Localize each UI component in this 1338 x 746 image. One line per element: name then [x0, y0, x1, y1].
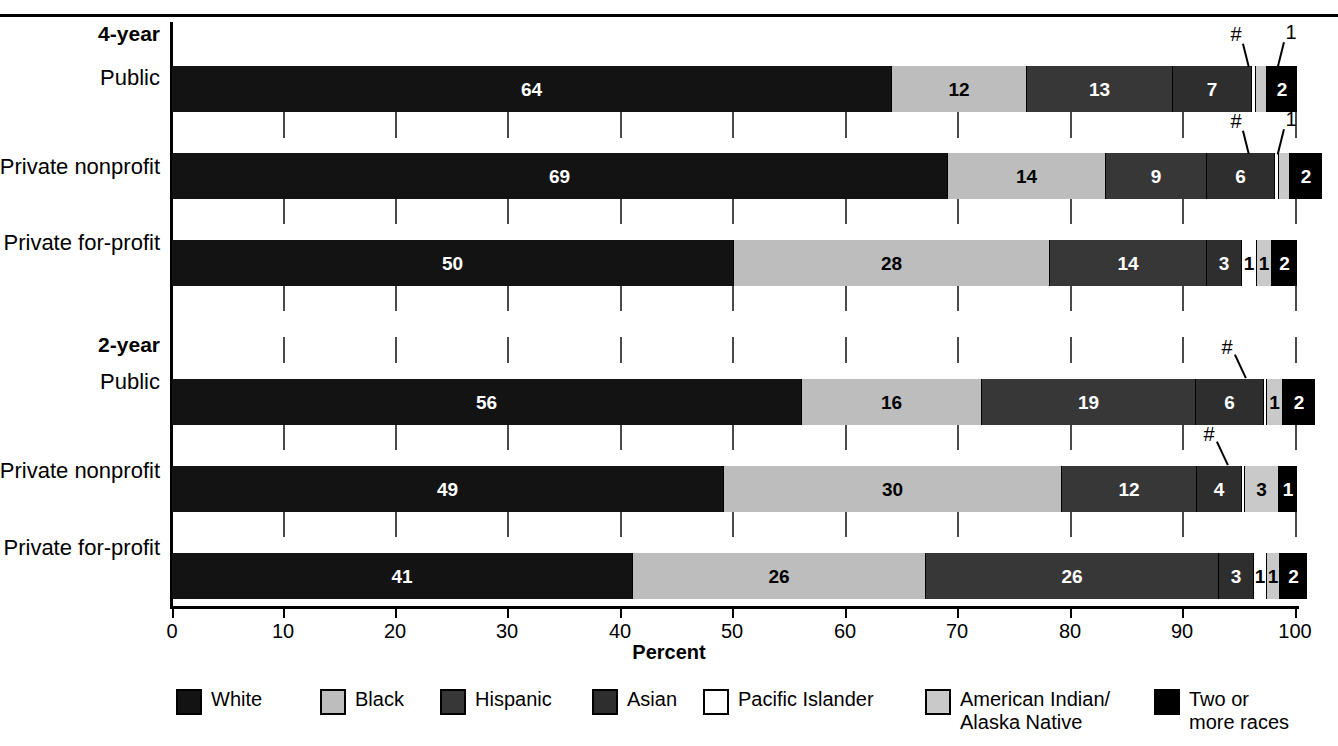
leader-line [1242, 44, 1250, 68]
segment-two-or-more-races[interactable]: 2 [1290, 153, 1322, 199]
legend-label-white: White [211, 688, 262, 711]
segment-two-or-more-races[interactable]: 2 [1283, 379, 1315, 425]
legend: White Black Hispanic Asian Pacific Islan… [0, 688, 1338, 744]
legend-swatch-black-icon [320, 689, 346, 715]
x-tick-label-100: 100 [1278, 620, 1311, 642]
legend-item-asian[interactable]: Asian [592, 688, 677, 715]
segment-hispanic[interactable]: 26 [926, 553, 1219, 599]
segment-white[interactable]: 64 [172, 66, 892, 112]
segment-american-indian-alaska-native[interactable] [1279, 153, 1290, 199]
legend-item-pacific-islander[interactable]: Pacific Islander [703, 688, 874, 715]
legend-label-two-or-more-races: Two or more races [1189, 688, 1289, 734]
callout-hash-2year-public: # [1221, 337, 1232, 357]
row-label-2year-public: Public [100, 370, 160, 394]
segment-asian[interactable]: 6 [1196, 379, 1264, 425]
row-label-2year-private-for-profit: Private for-profit [4, 536, 161, 560]
segment-american-indian-alaska-native[interactable]: 1 [1267, 379, 1283, 425]
leader-line [1216, 441, 1229, 465]
legend-label-black: Black [355, 688, 404, 711]
segment-two-or-more-races[interactable]: 2 [1272, 240, 1297, 286]
x-tick-label-10: 10 [272, 620, 294, 642]
segment-hispanic[interactable]: 14 [1050, 240, 1207, 286]
leader-line [1277, 42, 1285, 68]
row-label-2year-private-nonprofit: Private nonprofit [0, 459, 160, 483]
bar-4year-public[interactable]: 64 12 13 7 2 [172, 66, 1297, 112]
segment-asian[interactable]: 3 [1219, 553, 1254, 599]
callout-hash-2year-private-nonprofit: # [1203, 424, 1214, 444]
segment-hispanic[interactable]: 13 [1027, 66, 1173, 112]
callout-hash-4year-public: # [1230, 24, 1241, 44]
group-label-4-year: 4-year [98, 22, 160, 45]
top-rule [0, 14, 1338, 17]
row-label-4year-private-nonprofit: Private nonprofit [0, 155, 160, 179]
stacked-bar-chart: 4-year Public Private nonprofit Private … [0, 0, 1338, 746]
segment-hispanic[interactable]: 12 [1062, 466, 1197, 512]
segment-white[interactable]: 69 [172, 153, 948, 199]
segment-black[interactable]: 28 [734, 240, 1050, 286]
segment-pacific-islander[interactable]: 1 [1242, 240, 1257, 286]
segment-american-indian-alaska-native[interactable] [1256, 66, 1267, 112]
segment-asian[interactable]: 3 [1207, 240, 1242, 286]
segment-white[interactable]: 50 [172, 240, 734, 286]
segment-white[interactable]: 56 [172, 379, 802, 425]
bar-4year-private-nonprofit[interactable]: 69 14 9 6 2 [172, 153, 1322, 199]
segment-black[interactable]: 16 [802, 379, 982, 425]
segment-hispanic[interactable]: 9 [1106, 153, 1207, 199]
segment-asian[interactable]: 4 [1197, 466, 1242, 512]
segment-asian[interactable]: 6 [1207, 153, 1275, 199]
x-tick-label-50: 50 [721, 620, 743, 642]
legend-item-black[interactable]: Black [320, 688, 404, 715]
bar-4year-private-for-profit[interactable]: 50 28 14 3 1 1 2 [172, 240, 1297, 286]
segment-two-or-more-races[interactable]: 1 [1279, 466, 1297, 512]
callout-one-4year-private-nonprofit: 1 [1285, 109, 1296, 129]
segment-white[interactable]: 49 [172, 466, 724, 512]
legend-swatch-asian-icon [592, 689, 618, 715]
segment-american-indian-alaska-native[interactable]: 1 [1257, 240, 1272, 286]
legend-swatch-hispanic-icon [440, 689, 466, 715]
leader-line [1234, 354, 1247, 378]
legend-item-hispanic[interactable]: Hispanic [440, 688, 552, 715]
segment-two-or-more-races[interactable]: 2 [1280, 553, 1307, 599]
x-tick-label-20: 20 [384, 620, 406, 642]
x-axis-line [170, 606, 1299, 609]
legend-swatch-american-indian-alaska-native-icon [925, 689, 951, 715]
leader-line [1242, 131, 1250, 155]
legend-item-white[interactable]: White [176, 688, 262, 715]
legend-item-two-or-more-races[interactable]: Two or more races [1154, 688, 1289, 734]
segment-asian[interactable]: 7 [1173, 66, 1252, 112]
bar-2year-public[interactable]: 56 16 19 6 1 2 [172, 379, 1315, 425]
legend-swatch-pacific-islander-icon [703, 689, 729, 715]
x-tick-label-90: 90 [1171, 620, 1193, 642]
legend-label-hispanic: Hispanic [475, 688, 552, 711]
callout-one-4year-public: 1 [1285, 22, 1296, 42]
segment-hispanic[interactable]: 19 [982, 379, 1196, 425]
x-tick-label-70: 70 [946, 620, 968, 642]
legend-item-american-indian-alaska-native[interactable]: American Indian/ Alaska Native [925, 688, 1110, 734]
segment-two-or-more-races[interactable]: 2 [1267, 66, 1297, 112]
x-tick-label-0: 0 [166, 620, 177, 642]
legend-label-asian: Asian [627, 688, 677, 711]
leader-line [1277, 129, 1285, 155]
segment-american-indian-alaska-native[interactable]: 1 [1267, 553, 1280, 599]
legend-label-american-indian-alaska-native: American Indian/ Alaska Native [960, 688, 1110, 734]
group-label-2-year: 2-year [98, 333, 160, 356]
x-axis-title: Percent [0, 641, 1338, 664]
segment-black[interactable]: 12 [892, 66, 1027, 112]
segment-white[interactable]: 41 [172, 553, 633, 599]
segment-black[interactable]: 26 [633, 553, 926, 599]
bar-2year-private-nonprofit[interactable]: 49 30 12 4 3 1 [172, 466, 1297, 512]
x-tick-label-80: 80 [1059, 620, 1081, 642]
segment-black[interactable]: 30 [724, 466, 1062, 512]
bar-2year-private-for-profit[interactable]: 41 26 26 3 1 1 2 [172, 553, 1307, 599]
x-tick-label-30: 30 [496, 620, 518, 642]
row-label-4year-private-for-profit: Private for-profit [4, 231, 161, 255]
plot-area: 64 12 13 7 2 # 1 69 14 9 6 2 # 1 50 [172, 22, 1297, 606]
segment-pacific-islander[interactable]: 1 [1254, 553, 1267, 599]
legend-swatch-white-icon [176, 689, 202, 715]
legend-label-pacific-islander: Pacific Islander [738, 688, 874, 711]
segment-american-indian-alaska-native[interactable]: 3 [1245, 466, 1279, 512]
callout-hash-4year-private-nonprofit: # [1230, 111, 1241, 131]
x-tick-label-40: 40 [609, 620, 631, 642]
row-label-4year-public: Public [100, 66, 160, 90]
segment-black[interactable]: 14 [948, 153, 1106, 199]
